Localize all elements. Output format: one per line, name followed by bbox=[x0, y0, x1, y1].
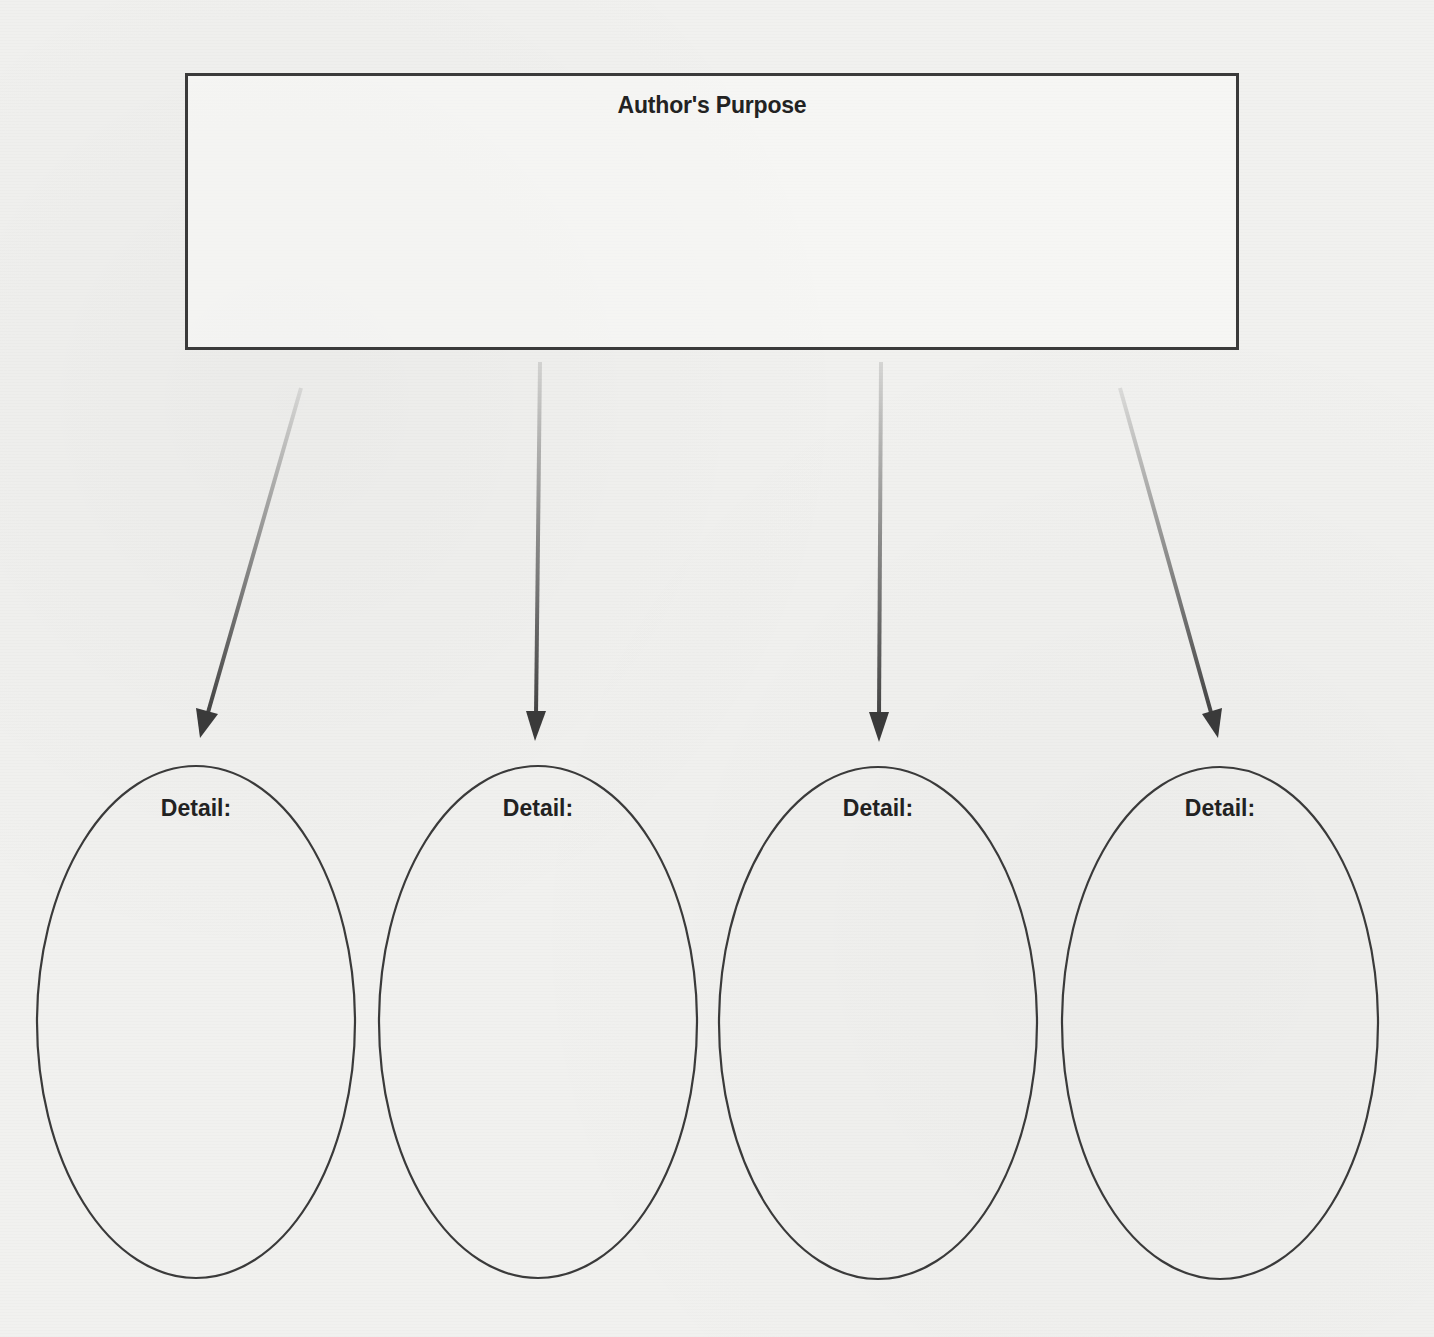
detail-label-4: Detail: bbox=[1120, 795, 1320, 822]
detail-oval-2[interactable] bbox=[379, 766, 697, 1278]
detail-oval-1[interactable] bbox=[37, 766, 355, 1278]
detail-label-1: Detail: bbox=[96, 795, 296, 822]
detail-oval-4[interactable] bbox=[1062, 767, 1378, 1279]
detail-oval-3[interactable] bbox=[719, 767, 1037, 1279]
detail-label-3: Detail: bbox=[778, 795, 978, 822]
arrow-to-detail-1 bbox=[196, 388, 301, 738]
arrowhead-icon bbox=[869, 712, 889, 742]
arrow-to-detail-2 bbox=[526, 362, 546, 741]
arrow-to-detail-3 bbox=[869, 362, 889, 742]
diagram-connectors bbox=[0, 0, 1434, 1337]
arrow-to-detail-4 bbox=[1120, 388, 1222, 738]
arrowhead-icon bbox=[196, 708, 218, 738]
arrowhead-icon bbox=[526, 711, 546, 741]
detail-label-2: Detail: bbox=[438, 795, 638, 822]
arrowhead-icon bbox=[1202, 708, 1222, 738]
